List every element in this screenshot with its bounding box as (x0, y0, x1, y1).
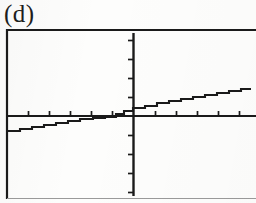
plot-area (0, 0, 256, 203)
figure-panel: (d) (0, 0, 256, 203)
data-series-staircase (7, 89, 251, 131)
